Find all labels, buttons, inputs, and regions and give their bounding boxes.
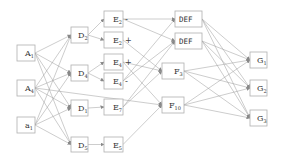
edge-a1-D5 xyxy=(35,125,71,145)
node-A1[interactable]: A1 xyxy=(17,45,35,61)
edge-D1-E7 xyxy=(88,107,104,108)
node-subscript: 3 xyxy=(263,118,266,124)
edge-A1-D4 xyxy=(35,53,71,73)
node-subscript: 5 xyxy=(84,145,87,151)
node-subscript: 3 xyxy=(180,71,183,77)
node-subscript: 2 xyxy=(84,35,87,41)
node-D4[interactable]: D4 xyxy=(71,65,88,81)
edges-layer xyxy=(35,19,250,145)
edge-a1-D1 xyxy=(35,108,71,125)
node-subscript: 2 xyxy=(119,40,122,46)
node-subscript: 1 xyxy=(31,53,34,59)
edge-D4-E4p xyxy=(88,62,104,73)
node-E7[interactable]: E7 xyxy=(104,99,123,115)
node-E4p[interactable]: E4+ xyxy=(104,54,132,70)
node-F3[interactable]: F3 xyxy=(162,63,184,79)
edge-A1-D2 xyxy=(35,35,71,53)
node-E2m[interactable]: E2- xyxy=(104,11,128,27)
node-E4m[interactable]: E4- xyxy=(104,73,128,89)
plus-sign: + xyxy=(125,36,132,45)
edge-D2-E2m xyxy=(88,19,104,35)
node-a1[interactable]: a1 xyxy=(17,117,35,133)
node-E5[interactable]: E5 xyxy=(104,137,123,152)
node-E2p[interactable]: E2+ xyxy=(104,32,132,48)
node-subscript: 4 xyxy=(119,81,122,87)
edge-A4-D1 xyxy=(35,88,71,108)
edge-DEF2-G2 xyxy=(202,41,250,88)
node-D1[interactable]: D1 xyxy=(71,100,88,116)
edge-F10-G1 xyxy=(184,60,250,105)
node-G3[interactable]: G3 xyxy=(250,110,267,126)
minus-sign: - xyxy=(125,77,128,86)
minus-sign: - xyxy=(125,15,128,24)
diagram-canvas: A1A4a1D2D4D1D5E2-E2+E4+E4-E7E5DEFDEFF3F1… xyxy=(0,0,283,160)
node-subscript: 1 xyxy=(30,125,33,131)
node-subscript: 4 xyxy=(119,62,122,68)
edge-DEF2-G1 xyxy=(202,41,250,60)
edge-DEF1-G3 xyxy=(202,19,250,118)
node-G2[interactable]: G2 xyxy=(250,80,267,96)
edge-D4-E4m xyxy=(88,73,104,81)
node-subscript: 2 xyxy=(119,19,122,25)
edge-F3-G1 xyxy=(184,60,250,71)
edge-E4p-F10 xyxy=(123,62,162,105)
node-label: DEF xyxy=(179,37,193,46)
node-subscript: 1 xyxy=(84,108,87,114)
plus-sign: + xyxy=(125,58,132,67)
node-subscript: 1 xyxy=(263,60,266,66)
node-DEF2[interactable]: DEF xyxy=(175,33,202,49)
edge-DEF2-G3 xyxy=(202,41,250,118)
network-diagram: A1A4a1D2D4D1D5E2-E2+E4+E4-E7E5DEFDEFF3F1… xyxy=(0,0,283,160)
node-subscript: 5 xyxy=(119,145,122,151)
node-D5[interactable]: D5 xyxy=(71,137,88,152)
node-D2[interactable]: D2 xyxy=(71,27,88,43)
edge-A4-F10 xyxy=(35,88,162,105)
node-subscript: 7 xyxy=(119,107,122,113)
node-label: DEF xyxy=(179,15,193,24)
edge-D2-E2p xyxy=(88,35,104,40)
node-F10[interactable]: F10 xyxy=(162,97,184,113)
node-subscript: 4 xyxy=(84,73,87,79)
nodes-layer: A1A4a1D2D4D1D5E2-E2+E4+E4-E7E5DEFDEFF3F1… xyxy=(17,11,267,152)
node-subscript: 10 xyxy=(175,105,181,111)
edge-E5-F10 xyxy=(123,105,162,145)
edge-F10-G3 xyxy=(184,105,250,118)
node-A4[interactable]: A4 xyxy=(17,80,35,96)
node-subscript: 2 xyxy=(263,88,266,94)
node-G1[interactable]: G1 xyxy=(250,52,267,68)
node-DEF1[interactable]: DEF xyxy=(175,11,202,27)
node-subscript: 4 xyxy=(31,88,34,94)
